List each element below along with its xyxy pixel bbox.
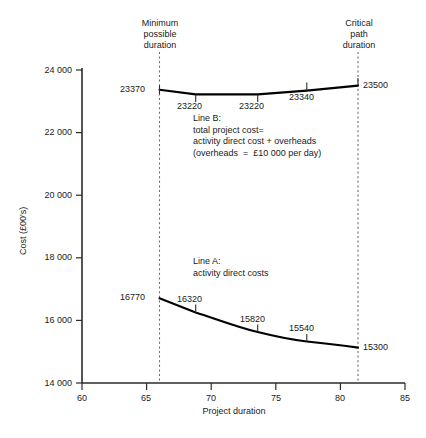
line-b-desc-2: activity direct cost + overheads xyxy=(193,136,321,148)
line-a-desc-1: activity direct costs xyxy=(193,268,269,280)
x-tick-label-85: 85 xyxy=(390,393,420,404)
min-duration-line-2: possible xyxy=(117,29,203,40)
x-tick-marks xyxy=(82,383,405,390)
series-a-value-label-3: 15540 xyxy=(289,323,314,334)
line-a-title: Line A: xyxy=(193,256,269,268)
x-tick-label-60: 60 xyxy=(67,393,97,404)
series-a-value-label-0: 16770 xyxy=(120,292,145,303)
series-b-value-label-4: 23500 xyxy=(363,80,388,91)
min-duration-line-1: Minimum xyxy=(117,18,203,29)
critical-path-line-1: Critical xyxy=(316,18,402,29)
x-tick-label-65: 65 xyxy=(131,393,161,404)
series-b-point-ticks xyxy=(160,78,359,102)
y-tick-marks xyxy=(76,70,82,383)
x-tick-label-75: 75 xyxy=(261,393,291,404)
y-tick-label-24000: 24 000 xyxy=(26,65,72,76)
series-b-value-label-0: 23370 xyxy=(120,84,145,95)
x-tick-label-80: 80 xyxy=(325,393,355,404)
y-tick-label-14000: 14 000 xyxy=(26,378,72,389)
min-duration-annotation: Minimum possible duration xyxy=(117,18,203,51)
series-line-b xyxy=(160,86,359,95)
min-duration-line-3: duration xyxy=(117,40,203,51)
critical-path-annotation: Critical path duration xyxy=(316,18,402,51)
x-tick-label-70: 70 xyxy=(196,393,226,404)
series-b-value-label-3: 23340 xyxy=(289,92,314,103)
line-b-desc-1: total project cost= xyxy=(193,125,321,137)
line-b-annotation: Line B: total project cost= activity dir… xyxy=(193,113,321,159)
series-b-value-label-1: 23220 xyxy=(177,101,202,112)
series-a-value-label-1: 16320 xyxy=(177,294,202,305)
series-a-value-label-2: 15820 xyxy=(240,314,265,325)
line-a-annotation: Line A: activity direct costs xyxy=(193,256,269,279)
y-tick-label-16000: 16 000 xyxy=(26,315,72,326)
line-b-desc-3: (overheads = £10 000 per day) xyxy=(193,148,321,160)
y-tick-label-22000: 22 000 xyxy=(26,127,72,138)
critical-path-line-2: path xyxy=(316,29,402,40)
critical-path-line-3: duration xyxy=(316,40,402,51)
series-a-value-label-4: 15300 xyxy=(363,342,388,353)
y-tick-label-18000: 18 000 xyxy=(26,252,72,263)
chart-figure: 24 000 22 000 20 000 18 000 16 000 14 00… xyxy=(0,0,426,438)
series-b-value-label-2: 23220 xyxy=(239,101,264,112)
y-axis-title: Cost (£00's) xyxy=(18,207,29,255)
y-tick-label-20000: 20 000 xyxy=(26,190,72,201)
line-b-title: Line B: xyxy=(193,113,321,125)
x-axis-title: Project duration xyxy=(174,406,294,417)
